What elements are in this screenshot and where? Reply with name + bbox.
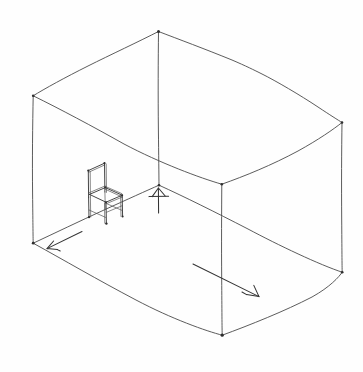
chair-stretcher-front <box>106 206 122 213</box>
floor-back-left-edge <box>33 185 159 243</box>
chair-foot-front-right <box>122 216 124 218</box>
vertex-floor-right <box>341 271 344 274</box>
ceiling-back-left-edge <box>33 32 158 96</box>
ceiling-front-right-edge <box>222 123 342 185</box>
chair-foot-front-left <box>105 222 107 224</box>
vertex-ceiling-right <box>341 121 344 124</box>
floor-front-left-edge <box>33 243 222 335</box>
room-box <box>32 30 344 337</box>
chair-joint-seat-front-right <box>121 194 123 196</box>
chair-joint-back-top-right <box>103 162 105 164</box>
chair-backrest-top-rail-under <box>89 165 105 172</box>
arrow-left-depth-head-tail <box>57 250 60 251</box>
arrow-center-up <box>149 188 169 213</box>
chair-seat-back-edge <box>90 188 106 195</box>
chair-joint-seat-back-right <box>104 187 106 189</box>
vertex-floor-left <box>32 242 35 245</box>
floor-arrows <box>47 188 259 297</box>
floor-back-right-edge <box>159 185 342 272</box>
left-corner-vertical-edge <box>32 96 33 243</box>
chair-seat-left-edge <box>90 194 107 202</box>
chair-seat-right-edge <box>105 188 122 196</box>
vertex-floor-front <box>221 334 224 337</box>
sketch-canvas: Hand-drawn perspective sketch of a room … <box>0 0 363 372</box>
chair-backrest-lower-rail <box>89 186 105 193</box>
chair-joint-back-top-left <box>87 170 89 172</box>
arrow-right-width-head-tail <box>242 292 247 295</box>
vertex-ceiling-left <box>32 95 35 98</box>
arrow-right-width <box>193 264 259 297</box>
chair-seat-front-edge <box>106 195 122 202</box>
chair-joint-seat-front-left <box>105 201 107 203</box>
room-perspective-drawing: Hand-drawn perspective sketch of a room … <box>0 0 363 372</box>
chair-foot-back-left <box>88 216 90 218</box>
vertex-floor-back <box>158 184 161 187</box>
vertex-ceiling-back <box>157 30 160 33</box>
vertex-ceiling-front <box>221 183 224 186</box>
right-corner-vertical-edge <box>342 123 343 273</box>
ceiling-front-left-edge <box>33 96 222 184</box>
arrow-right-width-shaft <box>193 264 259 297</box>
arrow-left-depth-head <box>47 241 57 250</box>
back-corner-vertical-edge <box>158 32 159 186</box>
ceiling-back-right-edge <box>159 32 343 123</box>
floor-front-right-edge <box>222 272 342 335</box>
chair-backrest-top-rail <box>88 163 104 170</box>
chair-stretcher-left <box>89 210 106 217</box>
front-corner-vertical-edge <box>222 184 223 335</box>
